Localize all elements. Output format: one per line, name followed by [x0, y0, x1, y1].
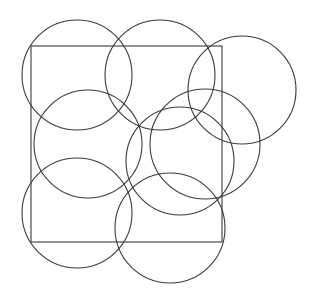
square-group — [31, 46, 222, 242]
circle-top-middle — [105, 20, 215, 130]
circles-group — [22, 20, 296, 283]
circle-covering-diagram — [0, 0, 312, 296]
circle-top-right — [188, 36, 296, 144]
circle-mid-left — [34, 90, 142, 198]
circle-bottom-left — [22, 158, 132, 268]
covered-square — [31, 46, 222, 242]
circle-mid-right — [126, 107, 234, 215]
circle-bottom-mid — [115, 173, 225, 283]
figure-canvas — [0, 0, 312, 296]
circle-top-left — [22, 20, 132, 130]
